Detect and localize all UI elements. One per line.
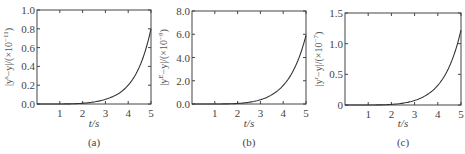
y-tick-label: 0.0	[176, 98, 190, 110]
line-chart-a: 123450.00.20.40.60.81.0t/s(a)|ys−y|/(×10…	[0, 0, 155, 154]
y-tick-label: 8.0	[176, 5, 190, 17]
y-tick-label: 0.6	[21, 42, 35, 54]
y-tick-label: 0.2	[21, 79, 35, 91]
x-axis-title: t/s	[244, 117, 254, 129]
y-tick-label: 1.0	[21, 4, 35, 16]
y-tick-label: 0	[338, 99, 344, 111]
panel-caption: (c)	[397, 136, 410, 149]
y-tick-label: 2.0	[176, 75, 190, 87]
y-tick-label: 0.8	[21, 23, 35, 35]
line-chart-c: 1234500.51.01.5t/s(c)|yr−y|/(×10−7)	[310, 0, 465, 154]
plot-frame	[192, 11, 306, 104]
y-tick-label: 1.5	[329, 7, 343, 19]
x-tick-label: 3	[412, 108, 418, 120]
chart-panel-a: 123450.00.20.40.60.81.0t/s(a)|ys−y|/(×10…	[0, 0, 155, 154]
y-axis-title: |ys−y|/(×10−11)	[2, 28, 15, 86]
x-tick-label: 5	[303, 107, 309, 119]
y-axis-title: |yr−y|/(×10−7)	[312, 32, 325, 87]
chart-panel-b: 123450.02.04.06.08.0t/s(b)|yE−y|/(×10−8)	[155, 0, 310, 154]
y-tick-label: 6.0	[176, 28, 190, 40]
y-tick-label: 1.0	[329, 38, 343, 50]
data-line	[345, 30, 461, 105]
x-tick-label: 3	[103, 107, 109, 119]
x-axis-title: t/s	[89, 117, 99, 129]
x-tick-label: 1	[212, 107, 218, 119]
y-tick-label: 0.5	[329, 68, 343, 80]
x-axis-title: t/s	[398, 117, 408, 129]
x-tick-label: 4	[125, 107, 131, 119]
line-chart-b: 123450.02.04.06.08.0t/s(b)|yE−y|/(×10−8)	[155, 0, 310, 154]
x-tick-label: 3	[258, 107, 264, 119]
y-tick-label: 0.0	[21, 98, 35, 110]
x-tick-label: 4	[280, 107, 286, 119]
panel-caption: (a)	[88, 136, 101, 149]
x-tick-label: 4	[435, 108, 441, 120]
x-tick-label: 1	[57, 107, 63, 119]
data-line	[192, 35, 306, 104]
panel-caption: (b)	[243, 136, 256, 149]
chart-panel-c: 1234500.51.01.5t/s(c)|yr−y|/(×10−7)	[310, 0, 465, 154]
x-tick-label: 5	[148, 107, 154, 119]
x-tick-label: 2	[235, 107, 241, 119]
x-tick-label: 2	[80, 107, 86, 119]
x-tick-label: 1	[365, 108, 371, 120]
x-tick-label: 2	[389, 108, 395, 120]
plot-frame	[345, 13, 461, 105]
plot-frame	[37, 10, 151, 104]
data-line	[37, 29, 151, 104]
y-tick-label: 4.0	[176, 52, 190, 64]
y-axis-title: |yE−y|/(×10−8)	[157, 29, 170, 85]
x-tick-label: 5	[458, 108, 464, 120]
y-tick-label: 0.4	[21, 60, 35, 72]
